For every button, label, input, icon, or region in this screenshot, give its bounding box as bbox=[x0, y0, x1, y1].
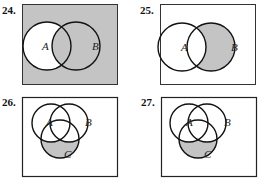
set-label-a: A bbox=[185, 116, 193, 128]
set-label-c: C bbox=[204, 148, 212, 160]
venn-27: A B C bbox=[0, 0, 260, 181]
venn-diagrams: A B A B A B C A B C bbox=[0, 0, 260, 181]
set-label-b: B bbox=[224, 116, 231, 128]
